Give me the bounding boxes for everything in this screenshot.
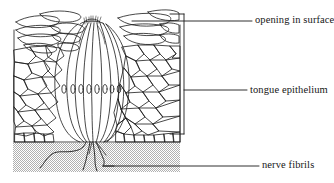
taste-bud [55, 16, 129, 142]
connective-tissue-region [13, 143, 180, 172]
label-nerve-fibrils: nerve fibrils [262, 159, 314, 170]
label-opening-in-surface: opening in surface [255, 14, 334, 25]
label-tongue-epithelium: tongue epithelium [250, 84, 328, 95]
tongue-epithelium-cells [14, 10, 180, 142]
